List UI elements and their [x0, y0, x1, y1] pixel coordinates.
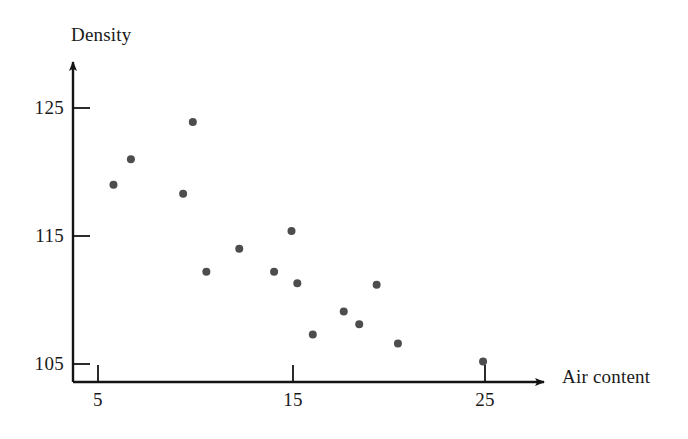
- data-point: [189, 118, 197, 126]
- x-tick-label-15: 15: [273, 389, 313, 411]
- y-axis-title: Density: [71, 24, 132, 46]
- data-point: [288, 227, 296, 235]
- x-axis-ticks: [98, 365, 485, 382]
- y-tick-label-125: 125: [20, 97, 64, 119]
- x-axis-title: Air content: [562, 366, 650, 388]
- data-point: [235, 245, 243, 253]
- y-tick-label-105: 105: [20, 353, 64, 375]
- data-point: [202, 268, 210, 276]
- data-point: [479, 357, 487, 365]
- data-point: [309, 331, 317, 339]
- y-tick-label-115: 115: [20, 225, 64, 247]
- data-point: [109, 181, 117, 189]
- scatter-plot-figure: Density Air content 125 115 105 5 15 25: [0, 0, 688, 439]
- data-point: [355, 320, 363, 328]
- x-tick-label-5: 5: [78, 389, 118, 411]
- x-tick-label-25: 25: [465, 389, 505, 411]
- data-point: [179, 190, 187, 198]
- data-point-group: [109, 118, 487, 365]
- data-point: [293, 279, 301, 287]
- data-point: [270, 268, 278, 276]
- y-axis-ticks: [73, 108, 90, 364]
- data-point: [127, 155, 135, 163]
- data-point: [340, 308, 348, 316]
- data-point: [373, 281, 381, 289]
- data-point: [394, 340, 402, 348]
